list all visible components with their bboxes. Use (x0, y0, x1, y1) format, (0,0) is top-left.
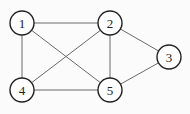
nodes: 12345 (10, 11, 181, 102)
node-label: 4 (19, 83, 26, 98)
node-5: 5 (98, 78, 122, 102)
node-2: 2 (98, 11, 122, 35)
node-1: 1 (10, 11, 34, 35)
node-3: 3 (157, 45, 181, 69)
node-label: 1 (19, 16, 26, 31)
node-label: 2 (107, 16, 114, 31)
node-label: 3 (166, 50, 173, 65)
graph-diagram: 12345 (0, 0, 190, 114)
node-4: 4 (10, 78, 34, 102)
edges (22, 23, 169, 90)
node-label: 5 (107, 83, 114, 98)
